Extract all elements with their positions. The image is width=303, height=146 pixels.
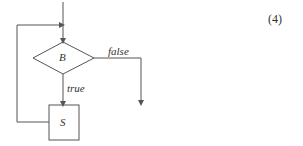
decision-label: B [59, 51, 66, 63]
false-arrow [94, 58, 141, 103]
false-label: false [108, 45, 129, 57]
statement-label: S [60, 116, 66, 128]
equation-number: (4) [268, 12, 282, 27]
true-label: true [67, 82, 85, 94]
loop-back-arrow [17, 25, 62, 122]
flowchart [0, 0, 303, 146]
